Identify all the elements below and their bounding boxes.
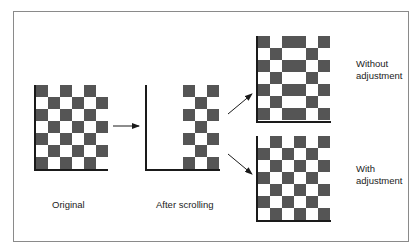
arrow-up-right-icon — [228, 94, 252, 114]
arrow-down-right-icon — [228, 154, 252, 174]
arrows — [0, 0, 420, 252]
